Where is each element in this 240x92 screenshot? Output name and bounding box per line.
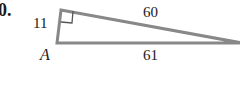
triangle-figure <box>0 0 240 92</box>
figure-canvas: 0. 11 A 60 61 <box>0 0 240 92</box>
side-label-61: 61 <box>143 48 158 63</box>
side-label-60: 60 <box>143 5 158 20</box>
side-label-11: 11 <box>33 16 47 31</box>
vertex-label-a: A <box>40 47 50 63</box>
problem-number: 0. <box>0 1 12 19</box>
